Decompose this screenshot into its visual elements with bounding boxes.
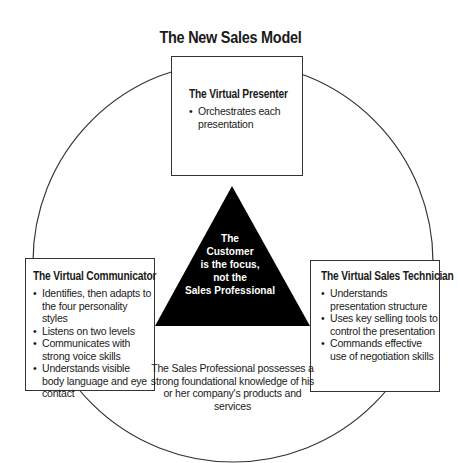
bullet-icon: • (321, 287, 324, 300)
presenter-bullet: •Orchestrates each presentation (189, 105, 302, 130)
bullet-icon: • (321, 337, 324, 350)
communicator-bullet: •Listens on two levels (33, 325, 154, 338)
triangle-label: The Customer is the focus, not the Sales… (160, 232, 301, 297)
bullet-text: Listens on two levels (42, 325, 135, 337)
communicator-bullet: •Communicates with strong voice skills (33, 337, 154, 362)
triangle-line: Customer (160, 245, 301, 258)
diagram-title: The New Sales Model (35, 28, 427, 48)
triangle-line: The (160, 232, 301, 245)
bullet-text: Understands presentation structure (330, 287, 427, 312)
communicator-bullet: •Understands visible body language and e… (33, 362, 154, 400)
triangle-line: not the (160, 271, 301, 284)
bullet-icon: • (33, 287, 36, 300)
technician-bullet: •Uses key selling tools to control the p… (321, 312, 439, 337)
technician-box: The Virtual Sales Technician •Understand… (310, 260, 440, 392)
bullet-text: Uses key selling tools to control the pr… (330, 312, 438, 337)
technician-bullet: •Understands presentation structure (321, 287, 439, 312)
bullet-icon: • (189, 105, 192, 118)
bullet-text: Communicates with strong voice skills (42, 337, 130, 362)
bullet-text: Commands effective use of negotiation sk… (330, 337, 434, 362)
communicator-box: The Virtual Communicator •Identifies, th… (25, 258, 155, 391)
foundation-text: The Sales Professional possesses a stron… (150, 362, 315, 412)
triangle-line: is the focus, (160, 258, 301, 271)
communicator-heading: The Virtual Communicator (33, 269, 136, 283)
communicator-bullet: •Identifies, then adapts to the four per… (33, 287, 154, 325)
bullet-text: Understands visible body language and ey… (42, 362, 147, 399)
bullet-icon: • (33, 325, 36, 338)
technician-heading: The Virtual Sales Technician (321, 269, 421, 283)
bullet-icon: • (321, 312, 324, 325)
triangle-line: Sales Professional (160, 284, 301, 297)
bullet-icon: • (33, 362, 36, 375)
technician-bullet: •Commands effective use of negotiation s… (321, 337, 439, 362)
bullet-text: Identifies, then adapts to the four pers… (42, 287, 151, 324)
bullet-icon: • (33, 337, 36, 350)
bullet-text: Orchestrates each presentation (198, 105, 280, 130)
presenter-box: The Virtual Presenter •Orchestrates each… (171, 56, 303, 176)
presenter-heading: The Virtual Presenter (189, 87, 285, 101)
